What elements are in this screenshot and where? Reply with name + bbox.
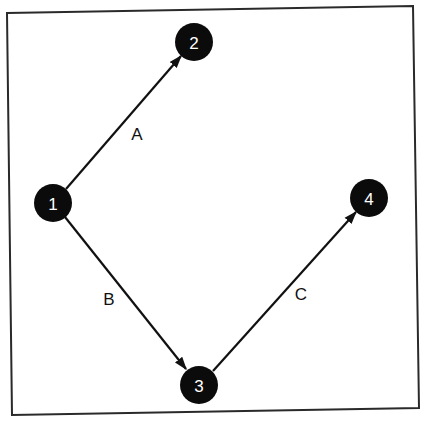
edge-a-arrow <box>66 56 181 189</box>
node-1: 1 <box>34 184 72 222</box>
node-2-label: 2 <box>189 34 198 53</box>
edge-b-label: B <box>103 290 114 309</box>
node-1-label: 1 <box>48 195 57 214</box>
edge-b-arrow <box>65 217 186 369</box>
edge-c-arrow <box>213 212 356 371</box>
node-3: 3 <box>180 366 218 404</box>
network-diagram: 1 2 3 4 A B C <box>0 0 431 425</box>
edge-a-label: A <box>131 125 143 144</box>
node-4: 4 <box>350 179 388 217</box>
node-3-label: 3 <box>194 377 203 396</box>
edge-c-label: C <box>295 285 307 304</box>
node-2: 2 <box>175 23 213 61</box>
node-4-label: 4 <box>364 190 373 209</box>
